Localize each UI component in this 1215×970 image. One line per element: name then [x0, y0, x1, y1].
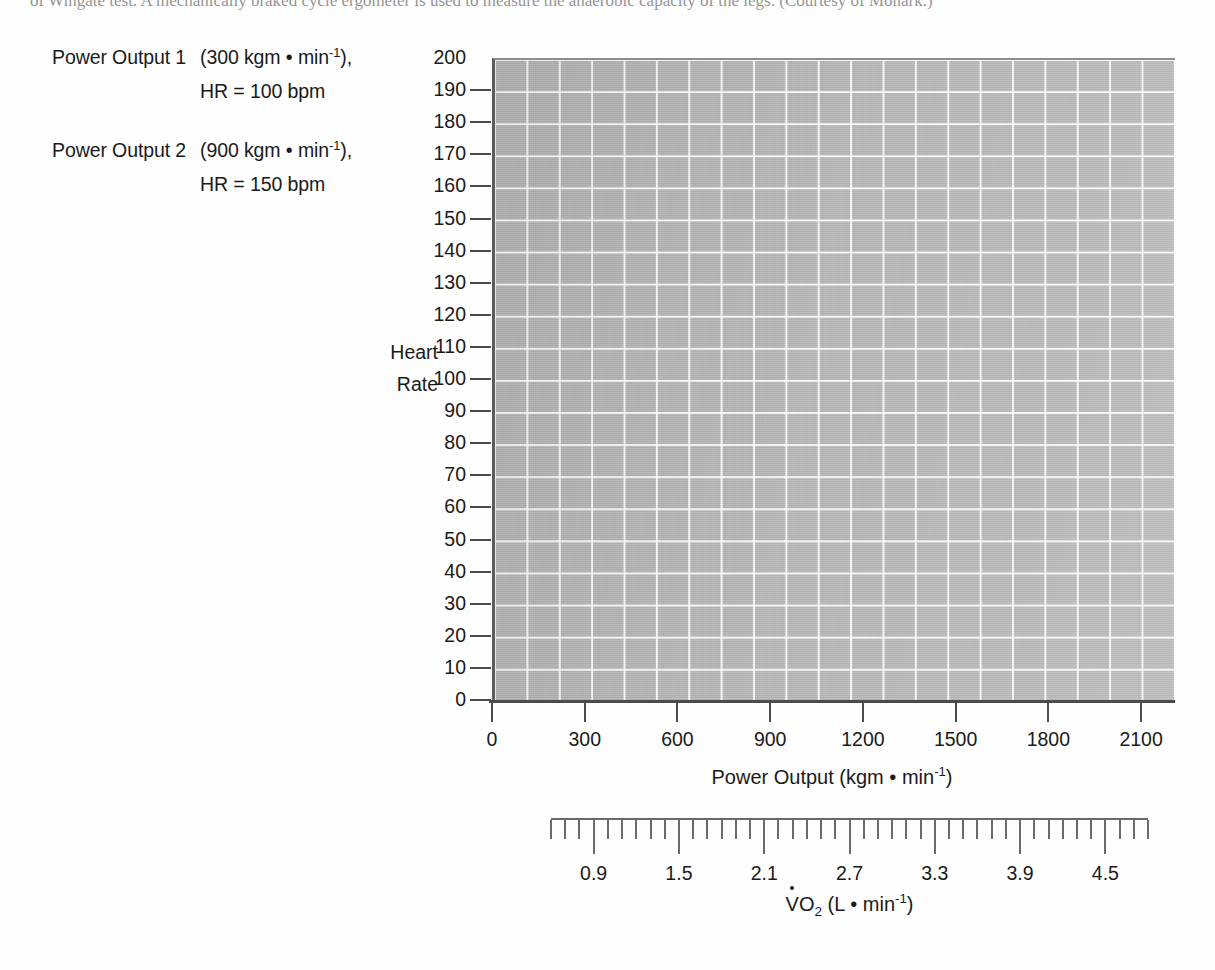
x-axis-title-prefix: Power Output (kgm	[711, 766, 889, 788]
vo2-major-tick	[678, 820, 680, 854]
legend-value-suffix: ),	[340, 139, 352, 161]
vo2-minor-tick	[650, 820, 652, 839]
legend-value-unit: min	[293, 139, 329, 161]
y-tick-label: 160	[410, 176, 466, 196]
vo2-tick-label: 0.9	[580, 862, 607, 885]
y-tick-mark	[470, 346, 491, 348]
y-tick-label: 120	[410, 305, 466, 325]
x-tick-mark	[1047, 701, 1049, 722]
bullet-icon: •	[286, 139, 293, 161]
vo2-minor-tick	[706, 820, 708, 839]
y-tick-mark	[470, 153, 491, 155]
vo2-minor-tick	[948, 820, 950, 839]
vo2-minor-tick	[735, 820, 737, 839]
vo2-tick-label: 2.1	[751, 862, 778, 885]
legend-subvalue: HR = 150 bpm	[200, 173, 422, 196]
vo2-minor-tick	[721, 820, 723, 839]
legend-key: Power Output 1	[52, 46, 200, 69]
vo2-tick-label: 2.7	[836, 862, 863, 885]
x-tick-mark	[676, 701, 678, 722]
vo2-minor-tick	[1005, 820, 1007, 839]
vo2-tick-label: 3.3	[921, 862, 948, 885]
vo2-minor-tick	[877, 820, 879, 839]
scan-artifact	[120, 760, 125, 780]
vo2-minor-tick	[1048, 820, 1050, 839]
x-tick-mark	[491, 701, 493, 722]
x-axis-line	[489, 700, 1175, 703]
x-tick-mark	[1140, 701, 1142, 722]
vo2-minor-tick	[1147, 820, 1149, 839]
y-tick-label: 140	[410, 241, 466, 261]
y-tick-label: 60	[410, 497, 466, 517]
vo2-major-tick	[1104, 820, 1106, 854]
y-tick-mark	[470, 539, 491, 541]
y-tick-mark	[470, 571, 491, 573]
legend-value: (300 kgm • min-1),	[200, 46, 352, 69]
y-tick-label: 150	[410, 209, 466, 229]
vo2-major-tick	[849, 820, 851, 854]
vo2-minor-tick	[777, 820, 779, 839]
legend-value-unit: min	[293, 46, 329, 68]
x-tick-label: 1500	[934, 728, 977, 751]
vo2-title-suffix: )	[907, 893, 914, 915]
plot-area	[492, 58, 1175, 702]
y-tick-label: 80	[410, 433, 466, 453]
x-axis-title-suffix: )	[946, 766, 953, 788]
overdot-icon	[790, 886, 794, 890]
vo2-minor-tick	[891, 820, 893, 839]
x-tick-label: 600	[661, 728, 694, 751]
x-tick-mark	[862, 701, 864, 722]
x-tick-label: 300	[568, 728, 601, 751]
vo2-minor-tick	[991, 820, 993, 839]
vo2-tick-label: 3.9	[1007, 862, 1034, 885]
vo2-minor-tick	[976, 820, 978, 839]
vo2-tick-label: 1.5	[665, 862, 692, 885]
vo2-minor-tick	[806, 820, 808, 839]
vo2-minor-tick	[692, 820, 694, 839]
vo2-major-tick	[763, 820, 765, 854]
x-tick-mark	[584, 701, 586, 722]
vo2-minor-tick	[792, 820, 794, 839]
y-tick-label: 50	[410, 530, 466, 550]
vo2-minor-tick	[820, 820, 822, 839]
legend-value: (900 kgm • min-1),	[200, 139, 352, 162]
y-tick-mark	[470, 410, 491, 412]
x-tick-mark	[769, 701, 771, 722]
y-tick-mark	[470, 474, 491, 476]
vo2-minor-tick	[1076, 820, 1078, 839]
plot-shading	[495, 60, 1175, 702]
y-tick-mark	[470, 506, 491, 508]
y-tick-mark	[470, 314, 491, 316]
x-tick-label: 2100	[1119, 728, 1162, 751]
vo2-major-tick	[934, 820, 936, 854]
vo2-minor-tick	[550, 820, 552, 839]
y-tick-mark	[470, 121, 491, 123]
y-tick-label: 70	[410, 465, 466, 485]
y-tick-mark	[470, 667, 491, 669]
vo2-minor-tick	[1119, 820, 1121, 839]
y-tick-mark	[470, 185, 491, 187]
legend-row: Power Output 1 (300 kgm • min-1),	[52, 46, 422, 69]
vo2-minor-tick	[749, 820, 751, 839]
legend-subvalue: HR = 100 bpm	[200, 80, 422, 103]
vo2-major-tick	[1019, 820, 1021, 854]
y-tick-label: 100	[410, 369, 466, 389]
x-axis-title-unit: min	[896, 766, 934, 788]
y-tick-mark	[470, 603, 491, 605]
cut-off-caption-line: of Wingate test. A mechanically braked c…	[30, 0, 1180, 13]
vo2-minor-tick	[607, 820, 609, 839]
vo2-minor-tick	[920, 820, 922, 839]
legend: Power Output 1 (300 kgm • min-1), HR = 1…	[52, 46, 422, 196]
legend-value-exponent: -1	[329, 45, 340, 60]
y-tick-label: 10	[410, 658, 466, 678]
vo2-axis-title: VO2 (L • min-1)	[551, 893, 1148, 916]
vo2-minor-tick	[962, 820, 964, 839]
x-tick-mark	[955, 701, 957, 722]
vo2-minor-tick	[1090, 820, 1092, 839]
vo2-minor-tick	[834, 820, 836, 839]
y-tick-label: 200	[410, 48, 466, 68]
legend-value-suffix: ),	[340, 46, 352, 68]
y-tick-mark	[470, 442, 491, 444]
legend-value-prefix: (300 kgm	[200, 46, 286, 68]
vo2-title-o: O	[799, 893, 815, 915]
